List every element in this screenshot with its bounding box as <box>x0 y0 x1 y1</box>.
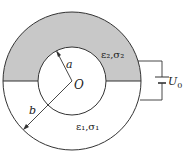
label-radius-a: a <box>66 58 73 71</box>
label-lower-medium: ε₁,σ₁ <box>76 121 99 132</box>
coaxial-diagram: O a b ε₂,σ₂ ε₁,σ₁ U0 <box>0 0 185 155</box>
label-radius-b: b <box>29 104 36 117</box>
label-voltage: U0 <box>168 75 182 90</box>
label-center-O: O <box>74 78 84 92</box>
wire-bottom <box>140 83 162 100</box>
label-upper-medium: ε₂,σ₂ <box>101 49 124 60</box>
wire-top <box>138 61 162 77</box>
